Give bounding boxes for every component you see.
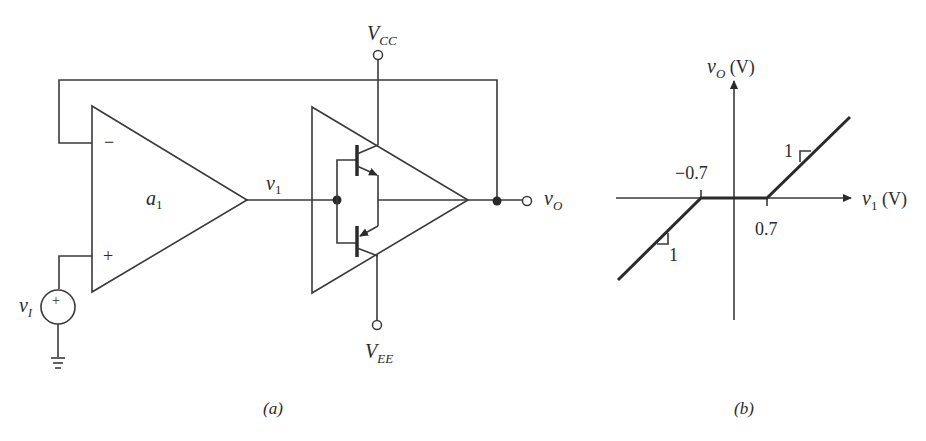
tick-label-pos: 0.7 [755,219,778,239]
caption-b: (b) [734,399,754,418]
v1-label: v1 [266,172,281,197]
figure-canvas: − + a1 + vI v1 VCC VEE [0,0,926,441]
vee-terminal [373,321,382,330]
npn-base-wire [337,160,357,200]
y-axis-label: vO (V) [707,55,755,81]
opamp-inverting-sign: − [104,132,114,152]
source-polarity-sign: + [52,293,60,308]
x-axis-label: v1 (V) [862,187,907,213]
opamp-noninverting-sign: + [103,246,113,266]
vee-label: VEE [365,340,393,366]
ground-icon [51,358,65,368]
vcc-label: VCC [367,22,397,48]
opamp-gain-label: a1 [146,187,163,212]
pnp-base-wire [337,200,357,243]
source-label: vI [19,294,33,320]
slope-label-lower: 1 [669,245,678,265]
noninverting-input-wire [59,256,92,289]
circuit-diagram: − + a1 + vI v1 VCC VEE [0,0,926,441]
slope-label-upper: 1 [784,141,793,161]
vcc-terminal [374,51,383,60]
output-terminal [523,197,532,206]
tick-label-neg: −0.7 [675,163,708,183]
caption-a: (a) [263,399,283,418]
junction-dot-output [493,197,502,206]
opamp-a1 [92,106,247,292]
vo-label: vO [544,187,563,213]
pnp-transistor-icon [357,226,378,257]
transfer-plot [616,81,851,320]
npn-transistor-icon [357,145,378,176]
